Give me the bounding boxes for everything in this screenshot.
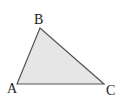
vertex-label-a: A	[7, 81, 18, 96]
triangle-diagram: A B C	[0, 0, 138, 109]
triangle-abc	[17, 28, 104, 84]
vertex-label-c: C	[106, 83, 115, 98]
vertex-label-b: B	[34, 12, 43, 27]
